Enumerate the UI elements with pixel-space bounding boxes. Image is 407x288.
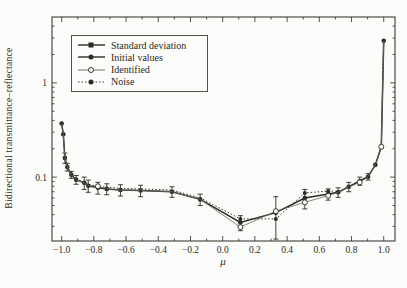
x-tick-label: −0.6 — [117, 245, 134, 255]
x-tick-label: −0.8 — [85, 245, 102, 255]
legend-item-noise: Noise — [77, 76, 203, 88]
legend-item-standard-deviation: Standard deviation — [77, 39, 203, 51]
y-tick-label: 0.1 — [35, 173, 47, 183]
x-tick-label: −0.2 — [182, 245, 199, 255]
noise-marker-icon — [77, 77, 106, 87]
series-identified-marker — [326, 193, 331, 198]
x-tick-label: −0.4 — [150, 245, 167, 255]
x-tick-label: −1.0 — [53, 245, 70, 255]
standard-deviation-marker-icon — [77, 40, 106, 50]
x-tick-label: 0.8 — [346, 245, 358, 255]
x-tick-label: 0.4 — [281, 245, 293, 255]
x-tick-label: 0.2 — [249, 245, 261, 255]
y-axis-label: Bidirectional transmittance–reflectance — [4, 47, 14, 208]
series-identified-marker — [273, 209, 278, 214]
x-axis-label: μ — [220, 255, 226, 267]
series-noise-marker — [274, 217, 278, 221]
series-identified-marker — [302, 200, 307, 205]
x-tick-label: 1.0 — [378, 245, 390, 255]
series-initial-values-marker — [238, 220, 243, 225]
legend-item-identified: Identified — [77, 64, 203, 76]
series-identified-marker — [95, 184, 100, 189]
x-tick-label: 0.0 — [217, 245, 229, 255]
legend: Standard deviation Initial values Identi… — [71, 35, 208, 92]
legend-item-initial-values: Initial values — [77, 51, 203, 63]
series-identified-marker — [357, 180, 362, 185]
series-identified-marker — [238, 225, 243, 230]
legend-label: Identified — [111, 64, 150, 75]
legend-label: Noise — [111, 76, 134, 87]
figure: −1.0−0.8−0.6−0.4−0.20.00.20.40.60.81.010… — [0, 0, 407, 288]
legend-label: Initial values — [111, 52, 163, 63]
series-identified-marker — [379, 144, 384, 149]
initial-values-marker-icon — [77, 52, 106, 62]
x-tick-label: 0.6 — [313, 245, 325, 255]
y-tick-label: 1 — [42, 78, 47, 88]
legend-label: Standard deviation — [111, 40, 186, 51]
series-noise-marker — [303, 191, 307, 195]
identified-marker-icon — [77, 65, 106, 75]
